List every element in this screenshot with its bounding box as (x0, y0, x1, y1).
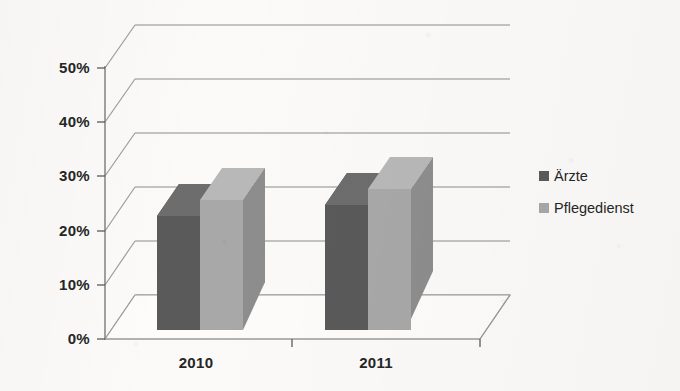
y-tick-label-10: 10% (59, 276, 90, 293)
legend-swatch-pflegedienst (539, 203, 549, 213)
bar-2010-arzte-front[interactable] (157, 216, 200, 330)
grid-risers-group (105, 25, 135, 339)
y-axis-tick-labels: 50% 40% 30% 20% 10% 0% (59, 59, 90, 347)
chart-container: 50% 40% 30% 20% 10% 0% (0, 0, 680, 391)
riser-30 (105, 133, 135, 176)
bar-2010-pflege-front[interactable] (200, 200, 243, 330)
x-axis-ticks (292, 339, 480, 347)
riser-40 (105, 79, 135, 122)
legend-label-pflegedienst: Pflegedienst (554, 200, 634, 216)
y-tick-label-0: 0% (68, 330, 90, 347)
x-label-2011: 2011 (359, 354, 393, 371)
bar-group-2011 (325, 157, 433, 330)
y-tick-label-20: 20% (59, 222, 90, 239)
legend: Ärzte Pflegedienst (539, 168, 634, 216)
x-axis-category-labels: 2010 2011 (179, 354, 393, 371)
y-tick-label-30: 30% (59, 167, 90, 184)
y-axis (97, 66, 105, 340)
riser-50 (105, 25, 135, 68)
bar-group-2010 (157, 168, 265, 330)
y-tick-label-40: 40% (59, 113, 90, 130)
riser-20 (105, 187, 135, 231)
bar-2011-arzte-front[interactable] (325, 205, 368, 330)
y-tick-label-50: 50% (59, 59, 90, 76)
bar-2011-pflege-front[interactable] (368, 189, 411, 330)
legend-swatch-arzte (539, 171, 549, 181)
bar-chart-3d: 50% 40% 30% 20% 10% 0% (0, 0, 680, 391)
legend-label-arzte: Ärzte (554, 168, 588, 184)
riser-10 (105, 241, 135, 285)
x-label-2010: 2010 (179, 354, 214, 371)
